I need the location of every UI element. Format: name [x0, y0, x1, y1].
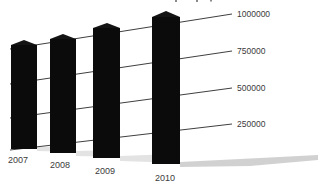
bar-2007-body	[11, 45, 37, 149]
y-tick-label-1000000: 1000000	[237, 9, 270, 19]
gridline-1000000	[10, 14, 232, 49]
bar-2010[interactable]	[152, 11, 180, 164]
gridline-500000	[10, 88, 232, 118]
x-label-2007: 2007	[8, 155, 28, 165]
x-label-2008: 2008	[50, 160, 70, 170]
y-tick-label-500000: 500000	[237, 83, 266, 93]
bar-2007[interactable]	[11, 40, 37, 149]
bar-chart: 1000000 750000 500000 250000 2007 2008 2…	[0, 0, 321, 184]
chart-container: 1000000 750000 500000 250000 2007 2008 2…	[0, 0, 321, 184]
shadow-bar-2010	[180, 155, 318, 167]
clipped-title-remnant	[175, 0, 212, 2]
bars	[11, 11, 180, 164]
y-axis-labels: 1000000 750000 500000 250000	[237, 9, 270, 129]
x-label-2010: 2010	[155, 173, 175, 183]
y-tick-label-750000: 750000	[237, 46, 266, 56]
bar-2009-body	[93, 28, 120, 158]
gridline-250000	[10, 124, 232, 150]
bar-2010-body	[152, 17, 180, 164]
x-label-2009: 2009	[95, 166, 115, 176]
gridline-750000	[10, 51, 232, 84]
bar-2008-body	[50, 39, 76, 153]
gridlines	[10, 14, 232, 150]
bar-2008[interactable]	[50, 34, 76, 153]
bar-2009[interactable]	[93, 23, 120, 158]
y-tick-label-250000: 250000	[237, 119, 266, 129]
